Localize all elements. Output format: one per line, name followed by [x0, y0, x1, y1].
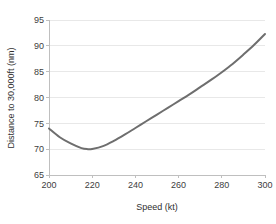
chart-container: 65707580859095 200220240260280300 Speed … — [0, 0, 276, 224]
chart-background — [0, 0, 276, 224]
y-tick-label: 85 — [34, 67, 44, 77]
x-tick-label: 200 — [41, 180, 56, 190]
x-tick-label: 280 — [214, 180, 229, 190]
y-tick-label: 65 — [34, 170, 44, 180]
x-tick-label: 240 — [128, 180, 143, 190]
y-tick-label: 75 — [34, 119, 44, 129]
line-chart: 65707580859095 200220240260280300 Speed … — [0, 0, 276, 224]
x-tick-label: 260 — [171, 180, 186, 190]
y-tick-label: 90 — [34, 41, 44, 51]
y-axis-title: Distance to 30,000ft (nm) — [6, 47, 16, 148]
x-axis-title: Speed (kt) — [136, 202, 178, 212]
y-tick-label: 70 — [34, 144, 44, 154]
x-tick-label: 220 — [85, 180, 100, 190]
x-tick-label: 300 — [257, 180, 272, 190]
y-tick-label: 80 — [34, 93, 44, 103]
y-tick-label: 95 — [34, 15, 44, 25]
